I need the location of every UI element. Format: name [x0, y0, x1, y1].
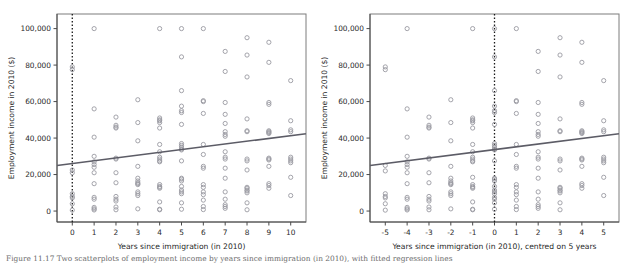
x-tick-label: 10	[286, 228, 296, 237]
data-point	[536, 112, 540, 116]
data-point	[383, 208, 387, 212]
data-point	[514, 185, 518, 189]
data-point	[580, 60, 584, 64]
data-point	[201, 111, 205, 115]
figure-caption: Figure 11.17 Two scatterplots of employm…	[6, 254, 620, 263]
data-point	[383, 202, 387, 206]
data-point	[92, 154, 96, 158]
data-point	[471, 27, 475, 31]
data-point	[405, 107, 409, 111]
data-point	[179, 159, 183, 163]
data-point	[536, 69, 540, 73]
data-point	[136, 98, 140, 102]
data-point	[580, 164, 584, 168]
data-point	[536, 150, 540, 154]
data-point	[558, 75, 562, 79]
data-point	[245, 75, 249, 79]
x-tick-label: 8	[245, 228, 250, 237]
x-tick-label: -3	[425, 228, 433, 237]
x-tick-label: 4	[580, 228, 585, 237]
data-point	[136, 139, 140, 143]
x-tick-label: 6	[201, 228, 206, 237]
data-point	[558, 53, 562, 57]
data-point	[558, 168, 562, 172]
data-point	[405, 171, 409, 175]
data-point	[602, 175, 606, 179]
data-point	[514, 207, 518, 211]
data-point	[536, 100, 540, 104]
data-point	[136, 164, 140, 168]
data-point	[580, 40, 584, 44]
x-tick-label: 1	[92, 228, 97, 237]
data-point	[201, 193, 205, 197]
data-point	[427, 181, 431, 185]
data-point	[405, 165, 409, 169]
data-point	[201, 27, 205, 31]
data-point	[158, 126, 162, 130]
data-point	[514, 193, 518, 197]
y-tick-label: 80,000	[25, 61, 51, 70]
data-point	[536, 121, 540, 125]
x-tick-label: 1	[514, 228, 519, 237]
data-point	[383, 68, 387, 72]
data-point	[114, 115, 118, 119]
y-tick-label: 60,000	[25, 97, 51, 106]
data-point	[92, 107, 96, 111]
data-point	[179, 27, 183, 31]
data-point	[471, 142, 475, 146]
data-point	[223, 100, 227, 104]
scatter-panel-right: 020,00040,00060,00080,000100,000-5-4-3-2…	[313, 0, 626, 248]
y-tick-label: 80,000	[338, 61, 364, 70]
data-point	[602, 119, 606, 123]
y-tick-label: 20,000	[338, 170, 364, 179]
x-tick-label: 2	[114, 228, 119, 237]
y-tick-label: 40,000	[338, 134, 364, 143]
data-point	[536, 190, 540, 194]
data-point	[201, 198, 205, 202]
x-tick-label: 5	[601, 228, 606, 237]
data-point	[471, 175, 475, 179]
x-tick-label: -1	[469, 228, 477, 237]
data-point	[223, 197, 227, 201]
data-point	[558, 36, 562, 40]
data-point	[267, 164, 271, 168]
data-point	[158, 27, 162, 31]
data-point	[92, 182, 96, 186]
data-point	[92, 165, 96, 169]
y-axis-title: Employment income in 2010 ($)	[7, 57, 16, 180]
data-point	[201, 185, 205, 189]
y-tick-label: 60,000	[338, 97, 364, 106]
data-point	[201, 152, 205, 156]
data-point	[405, 182, 409, 186]
data-point	[223, 150, 227, 154]
data-point	[289, 79, 293, 83]
scatter-panel-left: 020,00040,00060,00080,000100,00001234567…	[0, 0, 313, 248]
scatter-plot-left-svg: 020,00040,00060,00080,000100,00001234567…	[0, 0, 313, 248]
data-point	[245, 201, 249, 205]
data-point	[427, 115, 431, 119]
data-point	[289, 193, 293, 197]
x-axis-title: Years since immigration (in 2010), centr…	[391, 242, 596, 251]
y-axis-title: Employment income in 2010 ($)	[320, 57, 329, 180]
data-point	[427, 171, 431, 175]
data-point	[449, 207, 453, 211]
data-point	[92, 135, 96, 139]
data-point	[223, 121, 227, 125]
data-point	[136, 120, 140, 124]
data-point	[201, 207, 205, 211]
data-point	[289, 175, 293, 179]
data-point	[427, 208, 431, 212]
data-point	[449, 164, 453, 168]
y-tick-label: 100,000	[333, 24, 364, 33]
data-point	[179, 207, 183, 211]
data-point	[114, 171, 118, 175]
data-point	[536, 49, 540, 53]
data-point	[558, 208, 562, 212]
x-tick-label: 4	[157, 228, 162, 237]
x-tick-label: -5	[382, 228, 390, 237]
y-tick-label: 0	[46, 207, 51, 216]
data-point	[514, 198, 518, 202]
data-point	[449, 98, 453, 102]
data-point	[514, 111, 518, 115]
data-point	[158, 200, 162, 204]
